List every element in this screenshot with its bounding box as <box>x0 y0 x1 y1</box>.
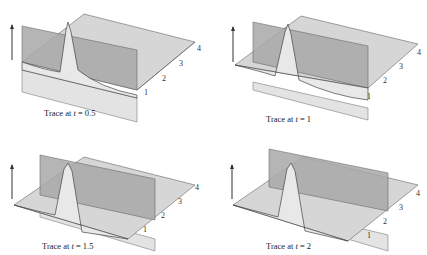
caption: Trace at t = 2 <box>266 241 311 251</box>
tick-1: 1 <box>367 231 371 240</box>
tick-4: 4 <box>197 44 201 53</box>
tick-1: 1 <box>143 225 147 234</box>
panel-trace-t-1: 1 2 3 4 Trace at t = 1 <box>213 0 426 127</box>
tick-2: 2 <box>162 74 166 83</box>
panel-trace-t-2: 1 2 3 4 Trace at t = 2 <box>213 127 426 254</box>
caption: Trace at t = 1 <box>266 114 311 124</box>
tick-3: 3 <box>179 59 183 68</box>
tick-2: 2 <box>383 76 387 85</box>
tick-4: 4 <box>417 48 421 57</box>
tick-4: 4 <box>195 183 199 192</box>
surface-plot <box>0 127 213 255</box>
tick-3: 3 <box>399 203 403 212</box>
caption: Trace at t = 0.5 <box>44 108 95 118</box>
tick-2: 2 <box>161 211 165 220</box>
caption: Trace at t = 1.5 <box>42 241 93 251</box>
surface-plot <box>213 0 427 127</box>
surface-plot <box>213 127 427 255</box>
tick-3: 3 <box>399 62 403 71</box>
tick-1: 1 <box>144 88 148 97</box>
tick-2: 2 <box>383 217 387 226</box>
panel-trace-t-0-5: 1 2 3 4 Trace at t = 0.5 <box>0 0 213 127</box>
tick-3: 3 <box>178 197 182 206</box>
panel-trace-t-1-5: 1 2 3 4 Trace at t = 1.5 <box>0 127 213 254</box>
tick-4: 4 <box>416 189 420 198</box>
tick-1: 1 <box>367 92 371 101</box>
